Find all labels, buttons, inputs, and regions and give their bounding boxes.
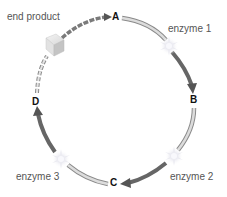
- arrow-A-to-enzyme1: [122, 18, 166, 40]
- arrow-enzyme1-to-B: [172, 52, 197, 94]
- arrow-D-to-end-product: [37, 56, 47, 93]
- arrow-enzyme3-to-D: [33, 106, 55, 152]
- arrow-end-product-to-A: [62, 13, 112, 38]
- arrow-B-to-enzyme2: [178, 108, 194, 150]
- end-product-label: end product: [7, 11, 60, 22]
- enzyme3-label: enzyme 3: [16, 171, 59, 182]
- node-D: D: [32, 96, 39, 107]
- node-A: A: [112, 11, 119, 22]
- enzyme1-label: enzyme 1: [168, 23, 211, 34]
- node-B: B: [190, 94, 197, 105]
- node-C: C: [110, 177, 117, 188]
- arrow-C-to-enzyme3: [68, 165, 108, 184]
- enzyme2-label: enzyme 2: [170, 171, 213, 182]
- arrow-enzyme2-to-C: [120, 163, 166, 188]
- cube-icon: [46, 34, 64, 56]
